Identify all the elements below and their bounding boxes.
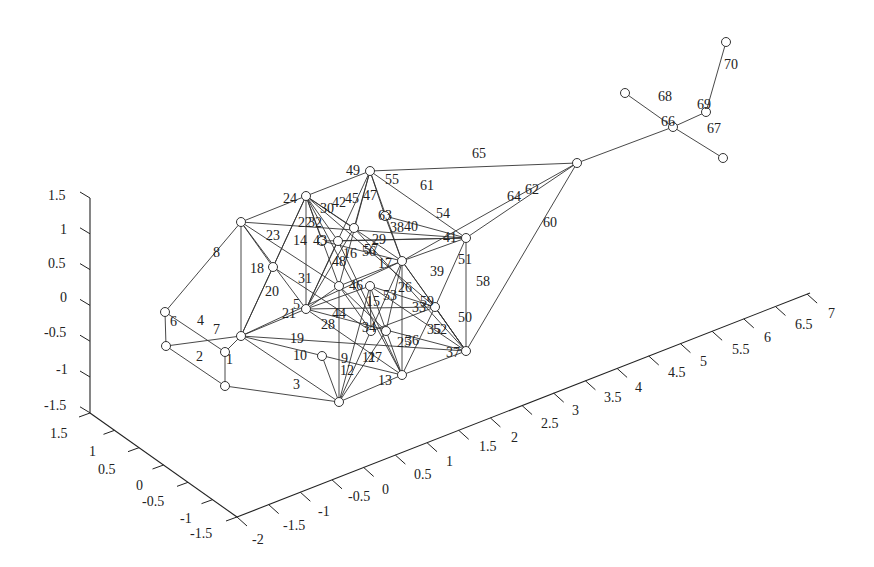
edge-label-40: 40 bbox=[404, 219, 418, 234]
x-tick bbox=[775, 307, 785, 316]
x-tick-label: 6 bbox=[764, 330, 771, 345]
node-n bbox=[366, 167, 375, 176]
edge-label-15: 15 bbox=[366, 294, 380, 309]
x-tick-label: -2 bbox=[252, 532, 264, 547]
edge-label-20: 20 bbox=[265, 284, 279, 299]
edge-label-62: 62 bbox=[525, 182, 539, 197]
edge-labels: 1234567891011121314151617181920212223242… bbox=[170, 57, 738, 392]
x-tick bbox=[554, 393, 564, 402]
edge-label-13: 13 bbox=[378, 373, 392, 388]
edge-label-27: 27 bbox=[368, 350, 382, 365]
edge-label-54: 54 bbox=[436, 206, 450, 221]
edge-label-32: 32 bbox=[308, 215, 322, 230]
y-tick-label: 0.5 bbox=[98, 462, 116, 477]
x-tick-label: -1 bbox=[318, 504, 330, 519]
x-tick-label: 6.5 bbox=[795, 317, 813, 332]
z-tick-label: 0.5 bbox=[48, 256, 66, 271]
edge-3 bbox=[225, 386, 339, 402]
edge-label-1: 1 bbox=[226, 352, 233, 367]
edge-label-31: 31 bbox=[298, 271, 312, 286]
edge-label-49: 49 bbox=[346, 163, 360, 178]
edge-label-50: 50 bbox=[458, 310, 472, 325]
y-tick-label: -1.5 bbox=[190, 526, 212, 541]
x-tick bbox=[680, 344, 690, 353]
x-tick bbox=[269, 505, 279, 514]
edge-label-61: 61 bbox=[420, 178, 434, 193]
edge-label-21: 21 bbox=[282, 306, 296, 321]
edge-label-43: 43 bbox=[313, 233, 327, 248]
edge-label-45: 45 bbox=[345, 191, 359, 206]
node-ae bbox=[722, 38, 731, 47]
x-tick-label: -0.5 bbox=[348, 489, 370, 504]
y-tick bbox=[104, 430, 115, 434]
x-tick bbox=[744, 319, 754, 328]
node-o bbox=[350, 224, 359, 233]
x-tick bbox=[807, 294, 817, 303]
edge-label-8: 8 bbox=[213, 245, 220, 260]
edge-label-39: 39 bbox=[430, 264, 444, 279]
3d-network-plot: 1.510.50-0.5-1-1.51.510.50-0.5-1-1.5-2-1… bbox=[0, 0, 874, 567]
y-tick bbox=[202, 500, 213, 504]
edge-66 bbox=[577, 127, 673, 163]
node-s bbox=[398, 257, 407, 266]
z-tick-label: 1.5 bbox=[48, 188, 66, 203]
x-tick-label: 5 bbox=[700, 354, 707, 369]
node-j bbox=[318, 352, 327, 361]
node-h bbox=[302, 192, 311, 201]
node-k bbox=[335, 398, 344, 407]
z-tick-label: 0 bbox=[60, 290, 67, 305]
edge-label-66: 66 bbox=[661, 114, 675, 129]
x-tick-label: 1.5 bbox=[479, 439, 497, 454]
z-tick bbox=[80, 264, 90, 270]
edge-14 bbox=[241, 222, 339, 286]
y-tick bbox=[177, 482, 188, 486]
edge-label-57: 57 bbox=[364, 242, 378, 257]
x-tick-label: 3.5 bbox=[604, 390, 622, 405]
edge-label-3: 3 bbox=[293, 377, 300, 392]
edge-label-38: 38 bbox=[390, 220, 404, 235]
x-tick bbox=[712, 331, 722, 340]
x-tick bbox=[617, 368, 627, 377]
edge-label-14: 14 bbox=[293, 233, 307, 248]
node-u bbox=[382, 327, 391, 336]
edge-label-67: 67 bbox=[707, 121, 721, 136]
y-tick-label: 0 bbox=[136, 478, 143, 493]
edge-label-12: 12 bbox=[340, 363, 354, 378]
edge-label-4: 4 bbox=[197, 313, 204, 328]
edge-label-36: 36 bbox=[405, 333, 419, 348]
edge-label-55: 55 bbox=[385, 172, 399, 187]
node-ad bbox=[719, 154, 728, 163]
edge-label-53: 53 bbox=[383, 288, 397, 303]
x-tick-label: 7 bbox=[828, 306, 835, 321]
node-q bbox=[366, 282, 375, 291]
edge-label-64: 64 bbox=[507, 189, 521, 204]
axis-tick-labels: 1.510.50-0.5-1-1.51.510.50-0.5-1-1.5-2-1… bbox=[44, 188, 835, 547]
y-tick-label: -0.5 bbox=[142, 494, 164, 509]
z-tick bbox=[80, 335, 90, 341]
edge-label-7: 7 bbox=[213, 322, 220, 337]
edge-label-70: 70 bbox=[724, 57, 738, 72]
y-tick-label: 1.5 bbox=[50, 426, 68, 441]
z-tick bbox=[80, 407, 90, 413]
x-tick bbox=[522, 406, 532, 415]
edge-label-17: 17 bbox=[378, 256, 392, 271]
x-tick-label: 0.5 bbox=[414, 467, 432, 482]
node-v bbox=[398, 371, 407, 380]
x-tick bbox=[649, 356, 659, 365]
node-b bbox=[162, 342, 171, 351]
x-tick-label: 2.5 bbox=[541, 416, 559, 431]
y-tick bbox=[79, 413, 90, 417]
edge-label-2: 2 bbox=[196, 349, 203, 364]
edge-label-42: 42 bbox=[332, 195, 346, 210]
node-i bbox=[302, 305, 311, 314]
x-tick bbox=[459, 430, 469, 439]
edge-12 bbox=[322, 356, 339, 402]
edge-label-63: 63 bbox=[378, 208, 392, 223]
edge-label-52: 52 bbox=[433, 322, 447, 337]
edge-label-37: 37 bbox=[446, 345, 460, 360]
node-z bbox=[573, 159, 582, 168]
y-tick-label: -1 bbox=[180, 511, 192, 526]
node-y bbox=[462, 347, 471, 356]
node-ab bbox=[621, 89, 630, 98]
edge-label-68: 68 bbox=[658, 89, 672, 104]
